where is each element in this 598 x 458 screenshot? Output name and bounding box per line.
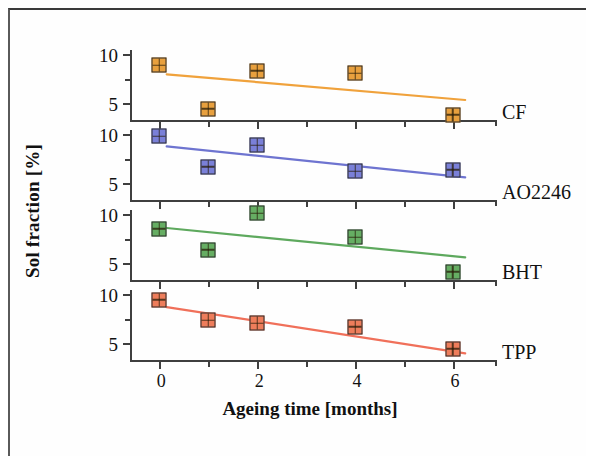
marker-crosshair-vertical bbox=[256, 64, 258, 77]
marker-crosshair-vertical bbox=[354, 67, 356, 80]
series-label-ao2246: AO2246 bbox=[502, 181, 571, 204]
x-tick-6: 6 bbox=[453, 362, 455, 369]
data-point bbox=[152, 221, 167, 236]
marker-crosshair-vertical bbox=[208, 160, 210, 173]
panel-cf: 105CF bbox=[130, 50, 497, 122]
axis-end-tick bbox=[495, 200, 497, 206]
data-point bbox=[152, 292, 167, 307]
x-tick-0 bbox=[159, 282, 161, 289]
x-minor-tick bbox=[306, 282, 308, 287]
y-tick-5: 5 bbox=[123, 343, 130, 345]
x-tick-6 bbox=[453, 282, 455, 289]
x-minor-tick bbox=[404, 202, 406, 207]
y-tick-label: 10 bbox=[99, 45, 118, 67]
x-minor-tick bbox=[208, 282, 210, 287]
data-point bbox=[348, 66, 363, 81]
marker-crosshair-vertical bbox=[159, 222, 161, 235]
x-axis-title: Ageing time [months] bbox=[150, 398, 470, 420]
x-tick-0: 0 bbox=[159, 362, 161, 369]
x-minor-tick bbox=[208, 202, 210, 207]
panel-y-axis-line bbox=[130, 210, 132, 282]
data-point bbox=[152, 129, 167, 144]
x-tick-label: 4 bbox=[353, 371, 362, 392]
y-minor-tick bbox=[125, 79, 130, 81]
x-tick-0 bbox=[159, 202, 161, 209]
y-tick-5: 5 bbox=[123, 103, 130, 105]
panel-bht: 105BHT bbox=[130, 210, 497, 282]
y-tick-10: 10 bbox=[123, 54, 130, 56]
panel-baseline bbox=[130, 360, 497, 362]
y-tick-10: 10 bbox=[123, 134, 130, 136]
data-point bbox=[445, 341, 460, 356]
trend-line-tpp bbox=[130, 290, 497, 362]
marker-crosshair-vertical bbox=[452, 342, 454, 355]
data-point bbox=[250, 138, 265, 153]
y-tick-label: 5 bbox=[109, 173, 119, 195]
marker-crosshair-vertical bbox=[159, 293, 161, 306]
data-point bbox=[348, 164, 363, 179]
marker-crosshair-vertical bbox=[354, 165, 356, 178]
data-point bbox=[201, 313, 216, 328]
y-tick-label: 10 bbox=[99, 125, 118, 147]
panel-ao2246: 105AO2246 bbox=[130, 130, 497, 202]
y-tick-label: 5 bbox=[109, 253, 119, 275]
data-point bbox=[152, 58, 167, 73]
y-tick-5: 5 bbox=[123, 263, 130, 265]
y-tick-label: 5 bbox=[109, 93, 119, 115]
x-tick-4 bbox=[355, 202, 357, 209]
marker-crosshair-vertical bbox=[354, 320, 356, 333]
data-point bbox=[201, 159, 216, 174]
marker-crosshair-vertical bbox=[256, 317, 258, 330]
marker-crosshair-vertical bbox=[452, 163, 454, 176]
data-point bbox=[250, 63, 265, 78]
axis-end-tick bbox=[495, 280, 497, 286]
x-tick-2 bbox=[257, 122, 259, 129]
data-point bbox=[201, 242, 216, 257]
panel-y-axis-line bbox=[130, 50, 132, 122]
data-point bbox=[348, 230, 363, 245]
marker-crosshair-vertical bbox=[208, 243, 210, 256]
axis-end-tick bbox=[495, 120, 497, 126]
y-tick-label: 10 bbox=[99, 285, 118, 307]
series-label-cf: CF bbox=[502, 101, 526, 124]
axis-end-tick bbox=[495, 360, 497, 366]
chart-plot-area: Sol fraction [%] Ageing time [months] 10… bbox=[0, 0, 598, 458]
marker-crosshair-vertical bbox=[208, 102, 210, 115]
trend-line-cf bbox=[130, 50, 497, 122]
data-point bbox=[445, 107, 460, 122]
trend-line-ao2246 bbox=[130, 130, 497, 202]
x-minor-tick bbox=[208, 122, 210, 127]
marker-crosshair-vertical bbox=[159, 59, 161, 72]
x-tick-label: 6 bbox=[450, 371, 459, 392]
y-minor-tick bbox=[125, 319, 130, 321]
x-minor-tick bbox=[306, 202, 308, 207]
y-tick-10: 10 bbox=[123, 214, 130, 216]
marker-crosshair-vertical bbox=[256, 139, 258, 152]
data-point bbox=[201, 101, 216, 116]
trend-line-bht bbox=[130, 210, 497, 282]
panel-tpp: 1050246TPP bbox=[130, 290, 497, 362]
x-tick-6 bbox=[453, 122, 455, 129]
x-minor-tick bbox=[306, 362, 308, 367]
data-point bbox=[348, 319, 363, 334]
data-point bbox=[445, 162, 460, 177]
marker-crosshair-vertical bbox=[354, 231, 356, 244]
panel-baseline bbox=[130, 280, 497, 282]
x-minor-tick bbox=[306, 122, 308, 127]
x-tick-label: 2 bbox=[255, 371, 264, 392]
marker-crosshair-vertical bbox=[256, 207, 258, 220]
marker-crosshair-vertical bbox=[452, 265, 454, 278]
x-minor-tick bbox=[404, 122, 406, 127]
marker-crosshair-vertical bbox=[159, 130, 161, 143]
panel-baseline bbox=[130, 120, 497, 122]
y-tick-10: 10 bbox=[123, 294, 130, 296]
x-tick-label: 0 bbox=[157, 371, 166, 392]
y-tick-label: 5 bbox=[109, 333, 119, 355]
marker-crosshair-vertical bbox=[208, 314, 210, 327]
x-tick-4 bbox=[355, 122, 357, 129]
y-tick-label: 10 bbox=[99, 205, 118, 227]
y-minor-tick bbox=[125, 159, 130, 161]
y-tick-5: 5 bbox=[123, 183, 130, 185]
y-minor-tick bbox=[125, 239, 130, 241]
panel-y-axis-line bbox=[130, 130, 132, 202]
